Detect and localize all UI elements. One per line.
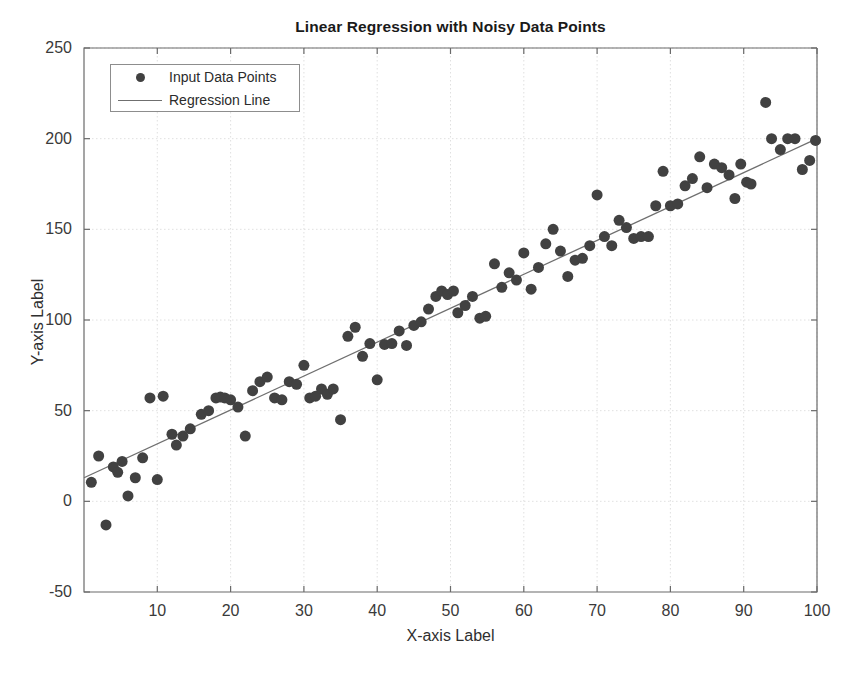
y-tick-label: 200 xyxy=(0,130,72,148)
chart-figure: Linear Regression with Noisy Data Points… xyxy=(0,0,856,681)
chart-legend: Input Data Points Regression Line xyxy=(110,64,300,112)
y-axis-label: Y-axis Label xyxy=(29,222,47,422)
x-tick-label: 30 xyxy=(295,602,313,620)
x-tick-label: 60 xyxy=(515,602,533,620)
data-points xyxy=(86,97,821,531)
x-tick-label: 90 xyxy=(735,602,753,620)
x-axis-label: X-axis Label xyxy=(84,627,817,645)
legend-line-icon xyxy=(111,100,169,101)
legend-marker-icon xyxy=(111,73,169,82)
x-tick-label: 40 xyxy=(368,602,386,620)
x-tick-label: 80 xyxy=(661,602,679,620)
y-tick-label: 0 xyxy=(0,492,72,510)
legend-item-line: Regression Line xyxy=(111,88,299,112)
x-tick-label: 20 xyxy=(222,602,240,620)
y-tick-label: -50 xyxy=(0,583,72,601)
y-tick-label: 250 xyxy=(0,39,72,57)
x-tick-label: 50 xyxy=(442,602,460,620)
x-tick-label: 100 xyxy=(804,602,831,620)
x-tick-label: 10 xyxy=(148,602,166,620)
legend-label-points: Input Data Points xyxy=(169,69,276,85)
legend-item-points: Input Data Points xyxy=(111,65,299,89)
gridlines xyxy=(84,48,817,592)
x-tick-label: 70 xyxy=(588,602,606,620)
legend-label-line: Regression Line xyxy=(169,92,270,108)
